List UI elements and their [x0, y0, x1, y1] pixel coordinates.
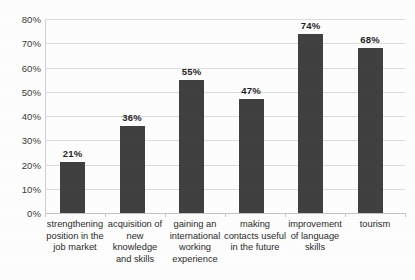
bar-value-label: 68% [360, 34, 380, 45]
bar-tourism[interactable] [358, 48, 383, 213]
y-axis-tick-label: 60% [1, 62, 41, 73]
gridline-30 [45, 140, 405, 141]
x-axis-label-line: contacts useful [224, 231, 286, 243]
x-axis-label-line: and skills [105, 254, 165, 266]
bar-value-label: 36% [122, 112, 142, 123]
x-axis-label-line: job market [44, 242, 106, 254]
x-axis-label-line: tourism [345, 219, 405, 231]
gridline-60 [45, 68, 405, 69]
bar-language-skills[interactable] [298, 34, 323, 214]
x-axis-label-line: improvement [284, 219, 346, 231]
x-axis-label-line: in the future [224, 242, 286, 254]
x-axis-category-label-0: strengthening position in the job market [44, 219, 106, 254]
gridline-50 [45, 92, 405, 93]
y-axis-tick-label: 80% [1, 14, 41, 25]
x-axis-label-line: new [105, 231, 165, 243]
x-axis-category-label-2: gaining an international working experie… [165, 219, 225, 265]
x-axis-tick [285, 213, 286, 217]
x-axis-tick [165, 213, 166, 217]
x-axis-tick [45, 213, 46, 217]
y-axis-tick-label: 10% [1, 184, 41, 195]
bar-making-contacts[interactable] [239, 99, 264, 213]
y-axis-tick-label: 20% [1, 159, 41, 170]
x-axis-label-line: international [165, 231, 225, 243]
bar-international-experience[interactable] [179, 80, 204, 213]
x-axis-label-line: gaining an [165, 219, 225, 231]
x-axis-label-line: of language [284, 231, 346, 243]
x-axis-label-line: experience [165, 254, 225, 266]
bar-value-label: 21% [63, 148, 83, 159]
y-axis-tick-label: 50% [1, 86, 41, 97]
bar-strengthening-position[interactable] [60, 162, 85, 213]
gridline-80 [45, 19, 405, 20]
x-axis-label-line: making [224, 219, 286, 231]
y-axis-tick-label: 40% [1, 111, 41, 122]
gridline-70 [45, 43, 405, 44]
x-axis-label-line: acquisition of [105, 219, 165, 231]
x-axis-category-label-1: acquisition of new knowledge and skills [105, 219, 165, 265]
bar-acquisition-knowledge[interactable] [120, 126, 145, 213]
x-axis-tick [405, 213, 406, 217]
gridline-10 [45, 189, 405, 190]
bar-value-label: 74% [301, 20, 321, 31]
x-axis-label-line: working [165, 242, 225, 254]
y-axis-tick-label: 70% [1, 38, 41, 49]
gridline-40 [45, 116, 405, 117]
x-axis-label-line: knowledge [105, 242, 165, 254]
y-axis-tick-label: 30% [1, 135, 41, 146]
bar-chart: 80% 70% 60% 50% 40% 30% 20% 10% 0% 21% 3… [0, 0, 415, 280]
x-axis-label-line: strengthening [44, 219, 106, 231]
x-axis-category-label-3: making contacts useful in the future [224, 219, 286, 254]
x-axis-label-line: skills [284, 242, 346, 254]
x-axis-label-line: position in the [44, 231, 106, 243]
x-axis-tick [105, 213, 106, 217]
x-axis-category-label-5: tourism [345, 219, 405, 231]
plot-area [45, 19, 405, 213]
x-axis-category-label-4: improvement of language skills [284, 219, 346, 254]
x-axis-tick [345, 213, 346, 217]
y-axis-tick-label: 0% [1, 208, 41, 219]
y-axis-labels: 80% 70% 60% 50% 40% 30% 20% 10% 0% [0, 0, 41, 280]
bar-value-label: 47% [241, 85, 261, 96]
bar-value-label: 55% [182, 66, 202, 77]
gridline-20 [45, 165, 405, 166]
x-axis-tick [225, 213, 226, 217]
